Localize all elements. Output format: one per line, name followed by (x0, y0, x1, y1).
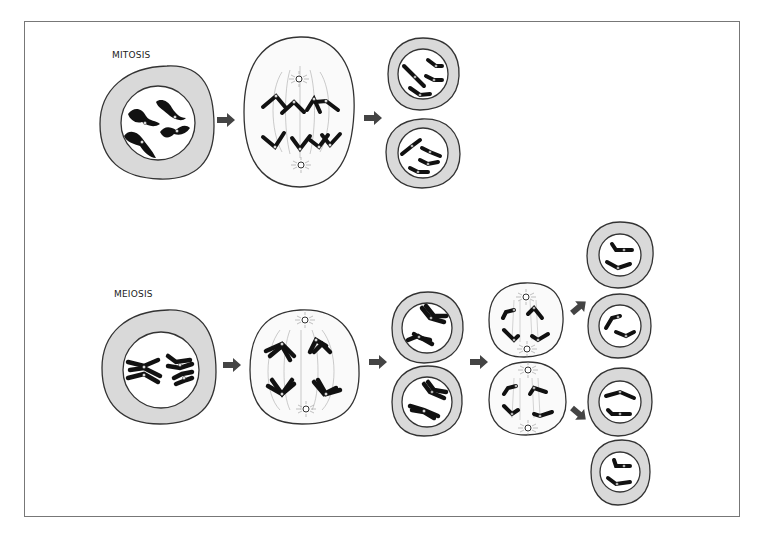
meiosis-II-spindle-cell-1 (489, 283, 563, 357)
arrow-icon (364, 111, 382, 125)
arrow-icon (470, 355, 488, 369)
meiosis-I-spindle-cell (250, 310, 359, 424)
mitosis-spindle-cell (244, 37, 354, 187)
mitosis-daughter-cell-2 (386, 119, 460, 188)
gamete-cell-2 (588, 294, 651, 358)
cell-division-illustration (0, 0, 758, 536)
arrow-icon (223, 358, 241, 372)
arrow-icon (217, 113, 235, 127)
mitosis-parent-cell (100, 66, 214, 179)
meiosis-II-spindle-cell-2 (489, 362, 566, 436)
arrow-icon (369, 355, 387, 369)
meiosis-parent-cell (102, 310, 216, 424)
arrow-icon (568, 403, 591, 425)
gamete-cell-4 (591, 440, 650, 505)
meiosis-I-daughter-cell-1 (392, 292, 463, 363)
mitosis-daughter-cell-1 (388, 38, 459, 110)
meiosis-I-daughter-cell-2 (392, 366, 462, 436)
arrow-icon (568, 296, 591, 318)
gamete-cell-1 (587, 222, 653, 288)
gamete-cell-3 (588, 368, 652, 436)
